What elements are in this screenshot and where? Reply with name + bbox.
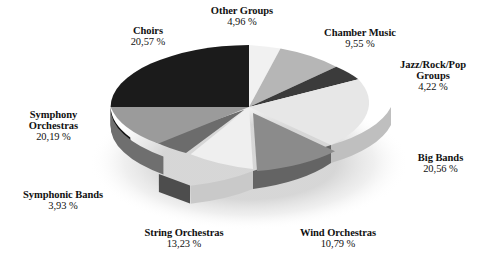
slice-label-value: 10,79 %: [283, 239, 393, 250]
slice-label-value: 4,96 %: [182, 17, 302, 28]
slice-label-value: 20,19 %: [6, 132, 101, 143]
slice-label-big-bands: Big Bands 20,56 %: [398, 153, 483, 175]
slice-label-value: 4,22 %: [383, 82, 483, 93]
slice-label-value: 13,23 %: [124, 239, 244, 250]
slice-label-jazz-rock-pop-groups: Jazz/Rock/Pop Groups 4,22 %: [383, 60, 483, 93]
slice-label-other-groups: Other Groups 4,96 %: [182, 6, 302, 28]
slice-label-wind-orchestras: Wind Orchestras 10,79 %: [283, 228, 393, 250]
pie-chart-figure: Other Groups 4,96 % Chamber Music 9,55 %…: [0, 0, 483, 271]
slice-label-symphony-orchestras: Symphony Orchestras 20,19 %: [6, 110, 101, 143]
slice-label-value: 3,93 %: [3, 201, 123, 212]
slice-label-value: 20,57 %: [103, 37, 193, 48]
slice-label-value: 9,55 %: [305, 39, 415, 50]
slice-label-value: 20,56 %: [398, 164, 483, 175]
pie-chart-page: Other Groups 4,96 % Chamber Music 9,55 %…: [0, 0, 483, 271]
slice-label-choirs: Choirs 20,57 %: [103, 26, 193, 48]
slice-label-string-orchestras: String Orchestras 13,23 %: [124, 228, 244, 250]
slice-label-symphonic-bands: Symphonic Bands 3,93 %: [3, 190, 123, 212]
slice-label-chamber-music: Chamber Music 9,55 %: [305, 28, 415, 50]
slice-choirs[interactable]: [111, 45, 249, 107]
